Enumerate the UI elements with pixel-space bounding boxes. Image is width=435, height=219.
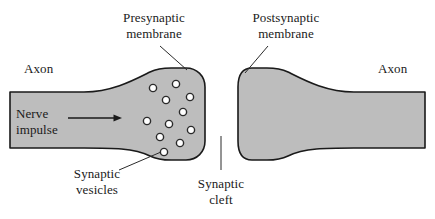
synaptic-vesicle <box>179 108 186 115</box>
synaptic-vesicle <box>165 120 172 127</box>
synaptic-vesicle <box>187 126 194 133</box>
synaptic-cleft-label: Synaptic cleft <box>185 176 257 207</box>
postsynaptic-neuron-shape <box>238 68 425 160</box>
axon-left-label: Axon <box>24 61 53 76</box>
axon-right-label: Axon <box>378 61 407 76</box>
synaptic-vesicle <box>160 148 167 155</box>
synapse-diagram: Presynaptic membrane Postsynaptic membra… <box>0 0 435 219</box>
nerve-impulse-label-line2: impulse <box>16 122 68 138</box>
synaptic-vesicles-label-line2: vesicles <box>58 182 136 198</box>
presynaptic-membrane-label: Presynaptic membrane <box>108 10 200 41</box>
synaptic-vesicle <box>162 96 169 103</box>
presynaptic-membrane-leader <box>160 46 187 70</box>
postsynaptic-membrane-label-line2: membrane <box>238 26 334 42</box>
nerve-impulse-label-line1: Nerve <box>16 106 68 122</box>
synaptic-vesicle <box>176 139 183 146</box>
presynaptic-membrane-label-line1: Presynaptic <box>108 10 200 26</box>
synaptic-vesicles-label: Synaptic vesicles <box>58 166 136 197</box>
synaptic-vesicle <box>186 93 193 100</box>
synaptic-vesicle <box>149 84 156 91</box>
synaptic-cleft-label-line1: Synaptic <box>185 176 257 192</box>
synaptic-vesicle <box>156 133 163 140</box>
postsynaptic-membrane-label-line1: Postsynaptic <box>238 10 334 26</box>
synaptic-vesicle <box>172 80 179 87</box>
synaptic-vesicle <box>143 117 150 124</box>
synaptic-cleft-label-line2: cleft <box>185 192 257 208</box>
nerve-impulse-label: Nerve impulse <box>16 106 68 137</box>
presynaptic-membrane-label-line2: membrane <box>108 26 200 42</box>
synaptic-vesicles-label-line1: Synaptic <box>58 166 136 182</box>
postsynaptic-membrane-label: Postsynaptic membrane <box>238 10 334 41</box>
